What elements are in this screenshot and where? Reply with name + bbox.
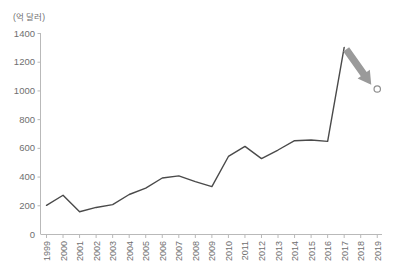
x-axis-tick-label: 2003: [108, 241, 118, 261]
y-axis-tick-label: 0: [30, 229, 35, 240]
decline-arrow-shape: [343, 47, 371, 84]
y-axis-tick-label: 400: [19, 171, 35, 182]
x-axis-tick-label: 2012: [257, 241, 267, 261]
x-axis-tick-label: 2002: [92, 241, 102, 261]
y-axis-tick-label: 800: [19, 114, 35, 125]
y-axis-tick-label: 1000: [14, 85, 35, 96]
x-axis-tick-label: 2018: [356, 241, 366, 261]
y-axis-tick-labels: 0200400600800100012001400: [14, 28, 35, 240]
decline-arrow-icon: [343, 47, 371, 84]
x-axis-tick-label: 2005: [141, 241, 151, 261]
x-axis-tick-label: 2009: [207, 241, 217, 261]
chart-plot-area: 0200400600800100012001400 19992000200120…: [0, 0, 393, 270]
x-axis-tick-label: 1999: [42, 241, 52, 261]
y-axis-tick-label: 1400: [14, 28, 35, 39]
x-axis-tick-label: 2001: [75, 241, 85, 261]
x-axis-tick-label: 2017: [340, 241, 350, 261]
line-chart: (억 달러) 0200400600800100012001400 1999200…: [0, 0, 393, 270]
x-axis-tick-label: 2008: [191, 241, 201, 261]
x-axis-tick-marks: [47, 235, 378, 239]
x-axis-tick-label: 2014: [290, 241, 300, 261]
y-axis-tick-label: 1200: [14, 56, 35, 67]
y-axis-tick-label: 600: [19, 142, 35, 153]
x-axis-tick-labels: 1999200020012002200320042005200620072008…: [42, 241, 383, 261]
x-axis-tick-label: 2016: [323, 241, 333, 261]
y-axis-tick-label: 200: [19, 200, 35, 211]
x-axis-tick-label: 2013: [274, 241, 284, 261]
x-axis-tick-label: 2000: [59, 241, 69, 261]
x-axis-tick-label: 2004: [125, 241, 135, 261]
x-axis-tick-label: 2019: [373, 241, 383, 261]
x-axis-tick-label: 2010: [224, 241, 234, 261]
forecast-point-marker: [374, 86, 380, 92]
data-series-line: [47, 47, 345, 211]
forecast-point-circle: [374, 86, 380, 92]
x-axis-tick-label: 2006: [158, 241, 168, 261]
x-axis-tick-label: 2011: [240, 241, 250, 260]
x-axis-tick-label: 2007: [174, 241, 184, 261]
x-axis-tick-label: 2015: [307, 241, 317, 261]
